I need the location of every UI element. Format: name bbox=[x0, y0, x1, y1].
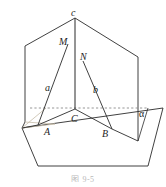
left-half-plane bbox=[22, 18, 75, 128]
label-point-C: C bbox=[71, 114, 78, 124]
geometry-drawing bbox=[0, 0, 166, 187]
label-edge-c: c bbox=[71, 8, 75, 18]
left-plane-top-edge bbox=[25, 18, 75, 46]
segment-CA bbox=[38, 109, 75, 125]
figure-caption: 图 9-5 bbox=[0, 173, 166, 182]
label-point-B: B bbox=[102, 129, 108, 139]
segment-CB bbox=[75, 109, 112, 129]
segment-B-to-base-right bbox=[112, 129, 138, 141]
segment-a bbox=[38, 44, 68, 125]
label-point-N: N bbox=[80, 52, 87, 62]
label-segment-b: b bbox=[93, 85, 98, 95]
label-segment-a: a bbox=[45, 83, 50, 93]
segment-a-group bbox=[38, 44, 68, 125]
right-half-plane bbox=[75, 18, 138, 141]
label-plane-alpha: α bbox=[139, 109, 144, 119]
label-point-M: M bbox=[59, 37, 67, 47]
geometry-figure: c M N a b C A B α 图 9-5 bbox=[0, 0, 166, 187]
label-point-A: A bbox=[44, 127, 50, 137]
